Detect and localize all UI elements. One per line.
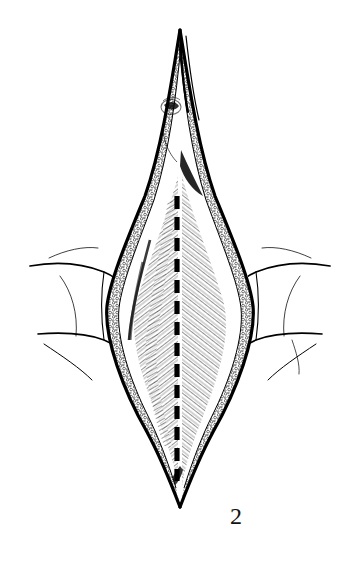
figure-number-label: 2 bbox=[215, 501, 257, 531]
figure-container: 2 bbox=[0, 0, 360, 561]
surgical-illustration bbox=[0, 0, 360, 561]
